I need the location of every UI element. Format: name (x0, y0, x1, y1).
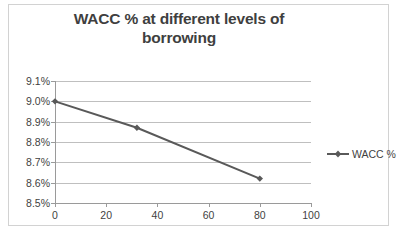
x-tick-label: 40 (152, 209, 164, 221)
chart-container: WACC % at different levels of borrowing … (8, 4, 389, 226)
chart-title: WACC % at different levels of borrowing (29, 9, 329, 47)
x-tick-label: 100 (302, 209, 320, 221)
y-tick-label: 9.0% (26, 95, 50, 107)
x-axis-line (55, 203, 311, 204)
data-point-marker (134, 125, 140, 131)
chart-title-line-1: WACC % at different levels of (29, 9, 329, 28)
y-tick-label: 8.5% (26, 197, 50, 209)
series-line (55, 101, 260, 178)
x-tick-label: 60 (203, 209, 215, 221)
chart-title-line-2: borrowing (29, 28, 329, 47)
x-tick-label: 80 (254, 209, 266, 221)
x-tick-label: 20 (100, 209, 112, 221)
x-tick-mark (311, 203, 312, 207)
legend: WACC % (327, 148, 396, 160)
legend-marker-icon (327, 149, 349, 159)
y-tick-label: 8.6% (26, 177, 50, 189)
legend-label-wacc: WACC % (352, 148, 396, 160)
data-point-marker (257, 175, 263, 181)
data-point-marker (52, 98, 58, 104)
x-tick-label: 0 (52, 209, 58, 221)
y-tick-label: 8.9% (26, 116, 50, 128)
y-tick-label: 8.8% (26, 136, 50, 148)
data-series-wacc (55, 81, 311, 203)
y-tick-label: 8.7% (26, 156, 50, 168)
plot-area: 8.5%8.6%8.7%8.8%8.9%9.0%9.1% 02040608010… (55, 81, 311, 203)
y-tick-label: 9.1% (26, 75, 50, 87)
